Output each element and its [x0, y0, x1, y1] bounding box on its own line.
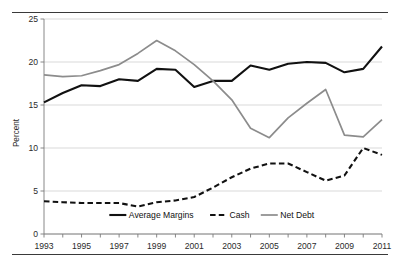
plot-area: 0510152025 19931995199719992001200320052… — [0, 0, 400, 268]
chart-legend: Average MarginsCashNet Debt — [109, 210, 314, 220]
y-tick-label-5: 5 — [33, 186, 38, 196]
y-axis-label: Percent — [12, 118, 21, 147]
axis-lines-group — [44, 19, 382, 234]
gridlines-group — [44, 19, 382, 234]
y-tick-label-0: 0 — [33, 229, 38, 239]
y-tick-label-25: 25 — [28, 14, 38, 24]
x-tick-label-2011: 2011 — [373, 241, 392, 251]
y-tick-labels-group: 0510152025 — [28, 14, 38, 239]
y-tick-label-10: 10 — [28, 143, 38, 153]
y-tick-label-20: 20 — [28, 57, 38, 67]
x-tick-labels-group: 1993199519971999200120032005200720092011 — [34, 241, 391, 251]
legend-label-cash: Cash — [230, 210, 250, 220]
series-line-net-debt — [44, 41, 382, 138]
legend-label-net-debt: Net Debt — [280, 210, 315, 220]
chart-figure: 0510152025 19931995199719992001200320052… — [0, 0, 400, 268]
x-tick-label-1995: 1995 — [72, 241, 91, 251]
series-line-average-margins — [44, 47, 382, 103]
x-tick-label-2009: 2009 — [335, 241, 354, 251]
series-line-cash — [44, 148, 382, 206]
x-tick-label-2005: 2005 — [260, 241, 279, 251]
x-tick-label-1999: 1999 — [147, 241, 166, 251]
x-tick-label-1997: 1997 — [110, 241, 129, 251]
x-tick-label-2007: 2007 — [297, 241, 316, 251]
data-series-group — [44, 41, 382, 207]
x-tick-label-2003: 2003 — [222, 241, 241, 251]
tickmarks-group — [41, 19, 383, 238]
y-axis-label-text: Percent — [12, 118, 21, 147]
x-tick-label-2001: 2001 — [185, 241, 204, 251]
x-tick-label-1993: 1993 — [34, 241, 53, 251]
y-tick-label-15: 15 — [28, 100, 38, 110]
legend-label-average-margins: Average Margins — [129, 210, 194, 220]
